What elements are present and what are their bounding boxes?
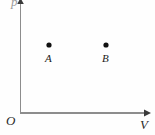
data-point-a-marker <box>46 42 51 47</box>
origin-label: O <box>6 114 15 127</box>
figure-canvas <box>0 0 155 135</box>
data-point-b-label: B <box>102 53 109 64</box>
x-axis-label: V <box>140 118 148 131</box>
pv-diagram-figure: p O V A B <box>0 0 155 135</box>
y-axis-label: p <box>11 0 18 8</box>
data-point-b-marker <box>103 42 108 47</box>
y-axis-arrowhead <box>17 0 24 4</box>
x-axis-arrowhead <box>144 109 151 116</box>
data-point-a-label: A <box>45 53 52 64</box>
